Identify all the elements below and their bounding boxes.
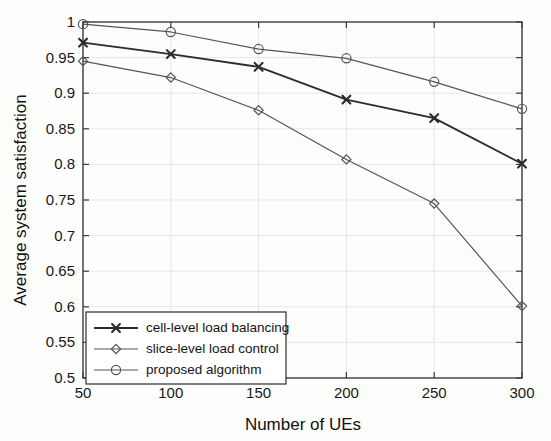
x-tick-label: 100 xyxy=(158,384,183,401)
y-tick-label: 0.8 xyxy=(54,155,75,172)
y-tick-label: 1 xyxy=(67,13,75,30)
series-line xyxy=(83,24,522,109)
series-cell-level-load-balancing xyxy=(79,39,526,168)
legend-label: cell-level load balancing xyxy=(146,320,289,335)
series-layer xyxy=(78,20,526,311)
series-slice-level-load-control xyxy=(78,57,526,311)
legend-label: proposed algorithm xyxy=(146,362,262,377)
x-tick-label: 250 xyxy=(422,384,447,401)
y-tick-label: 0.5 xyxy=(54,369,75,386)
x-axis-title: Number of UEs xyxy=(245,415,361,434)
figure-canvas: 0.50.550.60.650.70.750.80.850.90.9515010… xyxy=(0,0,551,441)
y-tick-label: 0.7 xyxy=(54,227,75,244)
y-tick-label: 0.65 xyxy=(46,262,75,279)
y-tick-label: 0.6 xyxy=(54,298,75,315)
series-proposed-algorithm xyxy=(78,20,526,114)
legend-label: slice-level load control xyxy=(146,341,279,356)
series-line xyxy=(83,61,522,306)
y-tick-label: 0.9 xyxy=(54,84,75,101)
chart-legend[interactable]: cell-level load balancingslice-level loa… xyxy=(86,312,289,384)
series-line xyxy=(83,43,522,164)
chart-svg: 0.50.550.60.650.70.750.80.850.90.9515010… xyxy=(0,0,551,441)
y-tick-label: 0.95 xyxy=(46,49,75,66)
x-tick-label: 150 xyxy=(246,384,271,401)
y-tick-label: 0.85 xyxy=(46,120,75,137)
y-tick-label: 0.75 xyxy=(46,191,75,208)
y-tick-label: 0.55 xyxy=(46,333,75,350)
x-tick-label: 50 xyxy=(75,384,92,401)
y-axis-title: Average system satisfaction xyxy=(11,94,30,305)
x-tick-label: 300 xyxy=(509,384,534,401)
x-tick-label: 200 xyxy=(334,384,359,401)
